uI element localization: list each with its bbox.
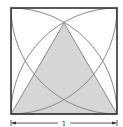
dimension-label: 1	[62, 120, 66, 127]
geometry-diagram: 1	[0, 0, 123, 127]
arrow-left-icon	[11, 122, 16, 125]
arrow-right-icon	[112, 122, 117, 125]
